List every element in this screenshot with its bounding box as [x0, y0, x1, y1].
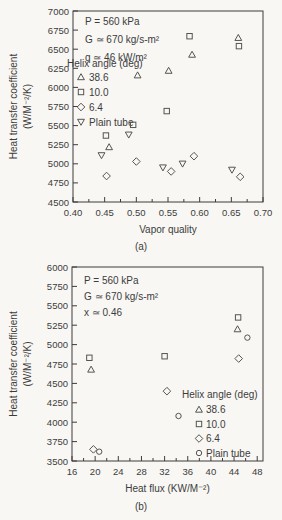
data-point-square [103, 133, 108, 138]
x-tick-label: 28 [136, 466, 147, 477]
data-point-square [187, 34, 192, 39]
square-marker-icon [196, 421, 201, 426]
annotation-line: G ≃ 670 kg/s-m² [85, 34, 160, 45]
data-point-triangle-up [235, 34, 242, 40]
annotation-line: P = 560 kPa [84, 275, 139, 286]
data-point-square [164, 108, 169, 113]
y-tick-label: 3750 [47, 436, 68, 447]
chart-b: 3500375040004250450047505000525055005750… [0, 260, 282, 520]
data-point-diamond [235, 355, 243, 363]
subfigure-label-b: (b) [0, 500, 282, 514]
diamond-marker-icon [195, 435, 203, 443]
y-tick-label: 5750 [47, 281, 68, 292]
y-tick-label: 6750 [48, 25, 69, 36]
x-tick-label: 0.55 [159, 207, 178, 218]
x-tick-label: 36 [182, 466, 193, 477]
square-marker-icon [78, 89, 83, 94]
y-tick-label: 5750 [48, 101, 69, 112]
x-axis-label: Vapor quality [139, 224, 197, 235]
data-point-diamond [133, 158, 141, 166]
y-tick-label: 6000 [48, 82, 69, 93]
data-point-circle [176, 413, 181, 418]
legend-title: Helix angle (deg) [67, 58, 143, 69]
x-tick-label: 44 [229, 466, 240, 477]
y-axis-label: Heat transfer coefficient [8, 311, 19, 417]
chart-a-canvas: 4500475050005250550057506000625065006750… [0, 0, 282, 240]
x-tick-label: 20 [90, 466, 101, 477]
legend-title: Helix angle (deg) [182, 389, 258, 400]
legend-entry-label: 10.0 [89, 87, 109, 98]
subfigure-label-a: (a) [0, 240, 282, 254]
triangle-down-marker-icon [78, 119, 85, 125]
legend-entry-label: 38.6 [206, 404, 226, 415]
annotation-line: P = 560 kPa [85, 16, 140, 27]
figure-panel: 4500475050005250550057506000625065006750… [0, 0, 282, 520]
legend-entry-label: 6.4 [206, 433, 220, 444]
legend-entry-label: 38.6 [89, 72, 109, 83]
diamond-marker-icon [77, 103, 85, 111]
y-tick-label: 5500 [48, 120, 69, 131]
circle-marker-icon [196, 450, 201, 455]
data-point-diamond [163, 387, 171, 395]
x-tick-label: 40 [206, 466, 217, 477]
y-axis-label: (W/M⁻²/K) [22, 342, 33, 387]
data-point-triangle-up [165, 67, 172, 73]
data-point-triangle-up [234, 326, 241, 332]
data-point-square [236, 43, 241, 48]
legend-entry-label: Plain tube [206, 448, 251, 459]
y-tick-label: 5250 [47, 320, 68, 331]
data-point-triangle-down [160, 165, 167, 171]
y-tick-label: 3500 [47, 456, 68, 467]
x-tick-label: 24 [113, 466, 124, 477]
y-tick-label: 4750 [48, 177, 69, 188]
data-point-diamond [236, 173, 244, 181]
annotation-line: x ≃ 0.46 [84, 307, 122, 318]
x-tick-label: 0.70 [254, 207, 273, 218]
data-point-diamond [190, 152, 198, 160]
x-tick-label: 0.45 [95, 207, 114, 218]
x-tick-label: 0.65 [222, 207, 241, 218]
y-tick-label: 6000 [47, 262, 68, 273]
data-point-triangle-down [229, 167, 236, 173]
y-tick-label: 4500 [47, 378, 68, 389]
y-axis-label: Heat transfer coefficient [8, 54, 19, 160]
x-tick-label: 32 [159, 466, 170, 477]
y-tick-label: 5250 [48, 139, 69, 150]
y-tick-label: 7000 [48, 6, 69, 17]
x-tick-label: 48 [252, 466, 263, 477]
data-point-triangle-up [106, 144, 113, 150]
legend-entry-label: 10.0 [206, 419, 226, 430]
y-tick-label: 4000 [47, 417, 68, 428]
data-point-diamond [167, 168, 175, 176]
legend-entry-label: 6.4 [89, 102, 103, 113]
data-point-triangle-down [98, 153, 105, 159]
y-tick-label: 5500 [47, 300, 68, 311]
data-point-triangle-up [189, 51, 196, 57]
x-axis-label: Heat flux (KW/M⁻²) [125, 483, 209, 494]
y-tick-label: 6500 [48, 44, 69, 55]
chart-a: 4500475050005250550057506000625065006750… [0, 0, 282, 260]
x-tick-label: 0.60 [190, 207, 209, 218]
x-tick-label: 0.50 [127, 207, 146, 218]
data-point-triangle-down [179, 161, 186, 167]
y-tick-label: 4750 [47, 359, 68, 370]
y-tick-label: 5000 [48, 158, 69, 169]
data-point-triangle-down [125, 132, 132, 138]
data-point-circle [97, 449, 102, 454]
data-point-square [87, 355, 92, 360]
legend-entry-label: Plain tube [89, 117, 134, 128]
y-tick-label: 6250 [48, 63, 69, 74]
y-tick-label: 4250 [47, 397, 68, 408]
x-tick-label: 16 [67, 466, 78, 477]
data-point-diamond [103, 172, 111, 180]
data-point-square [162, 354, 167, 359]
x-tick-label: 0.40 [64, 207, 83, 218]
triangle-up-marker-icon [196, 406, 203, 412]
data-point-triangle-up [134, 72, 141, 78]
page: { "page": { "background": "#f8f7f4", "in… [0, 0, 282, 520]
data-point-square [235, 315, 240, 320]
chart-b-canvas: 3500375040004250450047505000525055005750… [0, 260, 282, 500]
data-point-circle [245, 335, 250, 340]
data-point-triangle-up [88, 366, 95, 372]
triangle-up-marker-icon [78, 74, 85, 80]
